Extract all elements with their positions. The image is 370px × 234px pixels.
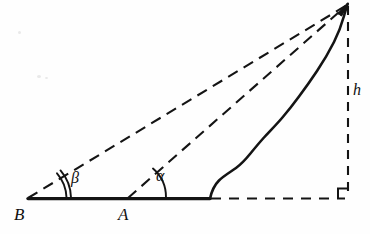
- angle-label-beta: β: [71, 170, 79, 186]
- hill-profile: [210, 4, 348, 199]
- angle-label-alpha: α: [156, 168, 164, 184]
- height-label: h: [353, 82, 361, 98]
- figure-canvas: [0, 0, 370, 234]
- right-angle-marker: [338, 189, 348, 199]
- vertex-label-b: B: [14, 206, 24, 223]
- vertex-label-a: A: [118, 206, 128, 223]
- geometry-figure: B A β α h: [0, 0, 370, 234]
